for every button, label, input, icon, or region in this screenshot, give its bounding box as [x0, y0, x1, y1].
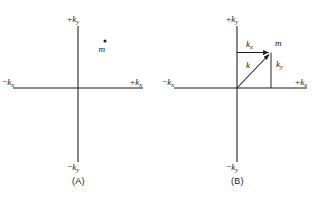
panel-a-point-m-dot: [104, 40, 107, 43]
panel-b-vector-k: [237, 55, 269, 89]
panel-b-label-kx: kx: [246, 39, 253, 50]
panel-a: m +ky −ky +kx −kx (A): [2, 14, 143, 186]
panel-b-point-m-label: m: [275, 38, 282, 48]
panel-b-label-positive-ky: +ky: [226, 14, 238, 25]
panel-a-point-m-label: m: [99, 44, 106, 54]
panel-b-label-ky: ky: [276, 59, 283, 70]
panel-b-label-negative-kx: −kx: [162, 77, 174, 88]
panel-b-label-negative-ky: −ky: [226, 162, 238, 173]
panel-a-label-positive-kx: +kx: [130, 77, 142, 88]
panel-b-label-k: k: [246, 60, 251, 70]
panel-a-label-negative-kx: −kx: [2, 77, 14, 88]
panel-b-label-positive-kx: +kx: [295, 77, 307, 88]
panel-a-label-positive-ky: +ky: [67, 14, 79, 25]
panel-b-caption: (B): [231, 176, 244, 186]
panel-a-label-negative-ky: −ky: [67, 162, 79, 173]
figure-canvas: m +ky −ky +kx −kx (A): [0, 0, 324, 200]
panel-b: kx ky k m +ky −ky +kx −kx (B): [162, 14, 307, 186]
panel-a-caption: (A): [72, 176, 85, 186]
kspace-figure: m +ky −ky +kx −kx (A): [0, 0, 324, 200]
